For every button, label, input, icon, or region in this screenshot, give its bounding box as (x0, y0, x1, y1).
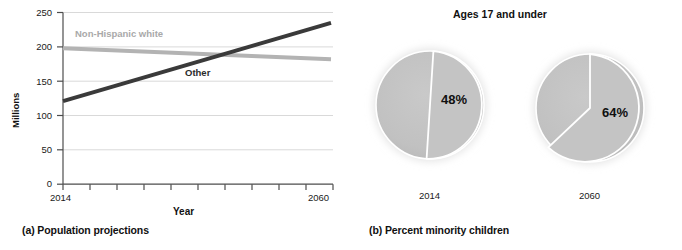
y-tick-label-0: 0 (22, 178, 52, 189)
y-tick-label-100: 100 (22, 110, 52, 121)
panel-population-projections: 250 200 150 100 50 0 2014 2060 Millions … (0, 0, 345, 250)
figure-container: 250 200 150 100 50 0 2014 2060 Millions … (0, 0, 682, 250)
x-axis-title: Year (173, 206, 194, 217)
series-line-non-hispanic-white (63, 48, 331, 59)
x-tick-label-2014: 2014 (50, 192, 71, 203)
caption-panel-a: (a) Population projections (22, 224, 149, 236)
x-tick-label-2060: 2060 (308, 192, 329, 203)
pie-charts-svg (345, 0, 682, 250)
pie-2060-year-label: 2060 (579, 190, 600, 201)
y-tick-label-250: 250 (22, 7, 52, 18)
panel-percent-minority-children: Ages 17 and under (345, 0, 682, 250)
pie-2014-year-label: 2014 (419, 190, 440, 201)
y-axis-title: Millions (10, 93, 21, 128)
series-label-non-hispanic-white: Non-Hispanic white (75, 28, 163, 39)
series-label-other: Other (185, 67, 210, 78)
y-tick-label-200: 200 (22, 41, 52, 52)
y-tick-label-150: 150 (22, 76, 52, 87)
caption-panel-b: (b) Percent minority children (369, 224, 509, 236)
y-tick-label-50: 50 (22, 144, 52, 155)
pie-chart-2014 (376, 51, 484, 159)
y-tick-marks (57, 13, 63, 185)
pie-2014-percent-label: 48% (441, 92, 467, 107)
pie-2060-percent-label: 64% (602, 105, 628, 120)
x-tick-marks (63, 184, 333, 190)
